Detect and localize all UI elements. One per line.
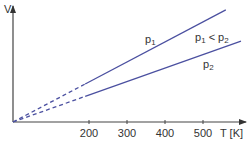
series-label-p2-sub: 2 bbox=[209, 63, 214, 72]
x-tick-label-500: 500 bbox=[194, 127, 212, 139]
series-p2-line bbox=[85, 41, 241, 96]
x-axis-label: T [K] bbox=[220, 127, 243, 139]
series-label-p1: p1 bbox=[145, 33, 156, 47]
chart: 200300400500 V T [K] p1 p1 < p2 p2 bbox=[0, 0, 250, 142]
annotation-p1-less-than-p2: p1 < p2 bbox=[195, 31, 229, 45]
x-tick-label-300: 300 bbox=[118, 127, 136, 139]
x-tick-label-200: 200 bbox=[80, 127, 98, 139]
annotation-part-sub2: 2 bbox=[224, 36, 229, 45]
y-axis-label: V bbox=[4, 3, 12, 15]
series-label-p2: p2 bbox=[203, 58, 214, 72]
x-ticks: 200300400500 bbox=[80, 120, 212, 139]
annotation-part-lt-p: < p bbox=[206, 31, 225, 43]
series-p2-extrapolated-segment bbox=[13, 96, 85, 122]
x-tick-label-400: 400 bbox=[156, 127, 174, 139]
series-p1-extrapolated-segment bbox=[13, 84, 85, 122]
series-label-p1-sub: 1 bbox=[151, 38, 156, 47]
